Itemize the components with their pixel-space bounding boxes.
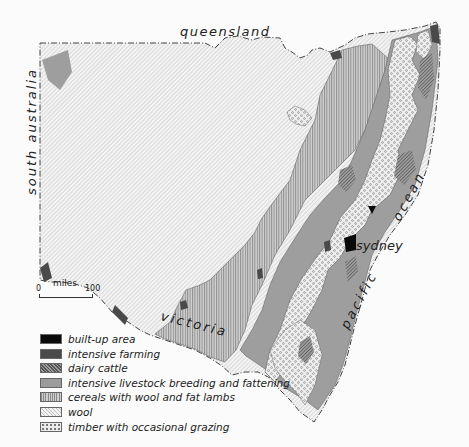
swatch-livestock-icon [40,378,62,388]
scale-start: 0 [36,284,41,293]
scale-unit: miles [53,278,77,288]
label-queensland: queensland [180,24,271,39]
scale-bar: miles 0 100 [36,278,96,308]
region-intensive-4 [257,268,263,279]
legend: built-up area intensive farming dairy ca… [40,332,290,434]
legend-item-timber: timber with occasional grazing [40,420,290,434]
label-south-australia: south australia [24,68,39,195]
legend-label: intensive livestock breeding and fatteni… [68,377,290,389]
label-sydney: sydney [356,238,403,253]
legend-item-cereals: cereals with wool and fat lambs [40,390,290,404]
legend-label: timber with occasional grazing [68,421,229,433]
scale-line [39,294,93,298]
legend-item-livestock: intensive livestock breeding and fatteni… [40,376,290,390]
legend-label: cereals with wool and fat lambs [68,391,235,403]
legend-label: intensive farming [68,348,160,360]
swatch-builtup-icon [40,334,62,344]
swatch-dairy-cattle-icon [40,363,62,373]
swatch-timber-icon [40,422,62,432]
legend-item-dairy-cattle: dairy cattle [40,361,290,375]
region-intensive-3 [324,240,331,252]
scale-end: 100 [85,284,100,293]
legend-label: dairy cattle [68,362,128,374]
swatch-cereals-icon [40,392,62,402]
swatch-wool-icon [40,407,62,417]
legend-item-builtup: built-up area [40,332,290,346]
legend-label: built-up area [68,333,135,345]
legend-item-wool: wool [40,405,290,419]
swatch-intensive-farming-icon [40,349,62,359]
legend-item-intensive-farming: intensive farming [40,347,290,361]
legend-label: wool [68,406,92,418]
